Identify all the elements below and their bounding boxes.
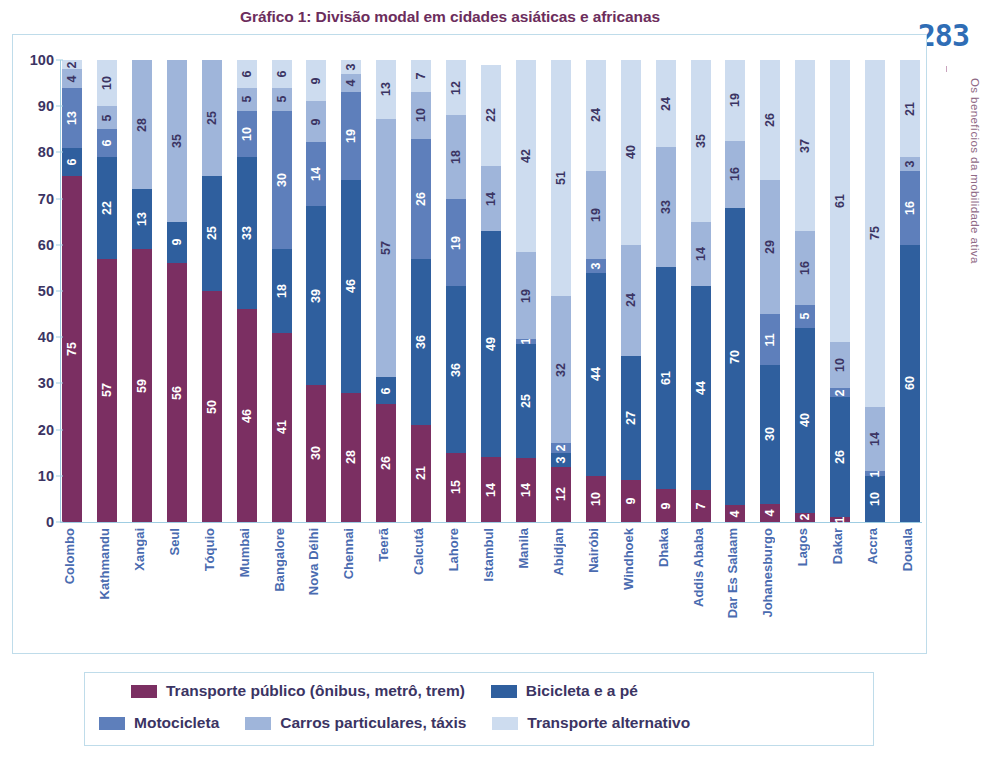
bar-segment[interactable]: 46	[237, 309, 257, 522]
bar-column[interactable]: 430112926	[760, 60, 780, 522]
bar-segment[interactable]: 19	[341, 92, 361, 180]
bar-column[interactable]: 14491422	[481, 60, 501, 522]
bar-segment[interactable]: 22	[97, 157, 117, 259]
bar-segment[interactable]: 25	[516, 344, 536, 458]
bar-segment[interactable]: 51	[551, 60, 571, 296]
bar-segment[interactable]: 33	[237, 157, 257, 309]
bar-segment[interactable]: 11	[760, 314, 780, 365]
bar-segment[interactable]: 3	[900, 157, 920, 171]
bar-segment[interactable]: 50	[202, 291, 222, 522]
bar-segment[interactable]: 6	[62, 148, 82, 176]
bar-segment[interactable]: 24	[586, 60, 606, 171]
bar-segment[interactable]: 24	[656, 60, 676, 147]
bar-segment[interactable]: 7	[691, 490, 711, 522]
bar-segment[interactable]: 60	[900, 245, 920, 522]
bar-segment[interactable]: 42	[516, 60, 536, 252]
bar-segment[interactable]: 7	[411, 60, 431, 92]
bar-segment[interactable]: 57	[97, 259, 117, 522]
bar-segment[interactable]: 16	[795, 231, 815, 305]
bar-segment[interactable]: 3	[341, 60, 361, 74]
bar-segment[interactable]: 57	[376, 119, 396, 377]
bar-segment[interactable]: 6	[237, 60, 257, 88]
bar-column[interactable]: 12323251	[551, 60, 571, 522]
bar-column[interactable]: 213626107	[411, 60, 431, 522]
bar-segment[interactable]: 5	[97, 106, 117, 129]
bar-column[interactable]: 30391499	[306, 60, 326, 522]
bar-column[interactable]: 57226510	[97, 60, 117, 522]
bar-segment[interactable]: 10	[830, 342, 850, 388]
bar-segment[interactable]: 32	[551, 296, 571, 444]
bar-segment[interactable]: 19	[446, 199, 466, 287]
bar-segment[interactable]: 25	[202, 176, 222, 292]
bar-segment[interactable]: 44	[691, 286, 711, 489]
bar-segment[interactable]: 3	[551, 453, 571, 467]
bar-segment[interactable]: 59	[132, 249, 152, 522]
bar-segment[interactable]: 36	[411, 259, 431, 425]
bar-segment[interactable]: 49	[481, 231, 501, 457]
bar-segment[interactable]: 1	[865, 471, 885, 476]
bar-segment[interactable]: 18	[446, 115, 466, 198]
bar-segment[interactable]: 6	[376, 377, 396, 404]
bar-segment[interactable]: 75	[865, 60, 885, 407]
bar-segment[interactable]: 33	[656, 147, 676, 267]
bar-segment[interactable]: 61	[656, 267, 676, 489]
bar-column[interactable]: 2665713	[376, 60, 396, 522]
bar-segment[interactable]: 14	[481, 166, 501, 231]
bar-segment[interactable]: 21	[900, 60, 920, 157]
bar-segment[interactable]: 21	[411, 425, 431, 522]
bar-segment[interactable]: 25	[202, 60, 222, 176]
bar-segment[interactable]: 16	[900, 171, 920, 245]
bar-column[interactable]: 9272440	[621, 60, 641, 522]
bar-column[interactable]: 9613324	[656, 60, 676, 522]
bar-column[interactable]: 12621061	[830, 60, 850, 522]
bar-segment[interactable]: 10	[97, 60, 117, 106]
bar-segment[interactable]: 41	[272, 333, 292, 522]
bar-column[interactable]: 104431924	[586, 60, 606, 522]
bar-column[interactable]: 4701619	[725, 60, 745, 522]
bar-segment[interactable]: 4	[760, 504, 780, 522]
bar-segment[interactable]: 29	[760, 180, 780, 314]
bar-segment[interactable]: 16	[725, 141, 745, 209]
bar-segment[interactable]: 14	[691, 222, 711, 287]
bar-column[interactable]: 41183056	[272, 60, 292, 522]
legend-item[interactable]: Transporte alternativo	[492, 714, 690, 732]
bar-segment[interactable]: 27	[621, 356, 641, 481]
bar-segment[interactable]: 30	[272, 111, 292, 250]
bar-column[interactable]: 28461943	[341, 60, 361, 522]
bar-column[interactable]: 591328	[132, 60, 152, 522]
bar-segment[interactable]: 39	[306, 206, 326, 384]
bar-segment[interactable]: 4	[725, 505, 745, 522]
bar-segment[interactable]: 13	[132, 189, 152, 249]
bar-segment[interactable]: 19	[725, 60, 745, 141]
bar-segment[interactable]: 26	[376, 404, 396, 522]
bar-segment[interactable]: 14	[306, 142, 326, 206]
legend-item[interactable]: Carros particulares, táxis	[245, 714, 466, 732]
bar-segment[interactable]: 40	[621, 60, 641, 245]
bar-segment[interactable]: 36	[446, 286, 466, 452]
bar-segment[interactable]: 19	[586, 171, 606, 259]
bar-segment[interactable]: 5	[272, 88, 292, 111]
bar-segment[interactable]: 4	[62, 69, 82, 87]
bar-segment[interactable]: 13	[62, 88, 82, 148]
bar-segment[interactable]: 30	[760, 365, 780, 504]
bar-segment[interactable]: 61	[830, 60, 850, 342]
bar-segment[interactable]: 26	[411, 139, 431, 259]
bar-segment[interactable]: 6	[97, 129, 117, 157]
bar-segment[interactable]: 9	[306, 60, 326, 101]
bar-segment[interactable]: 5	[795, 305, 815, 328]
bar-segment[interactable]: 24	[621, 245, 641, 356]
bar-segment[interactable]: 2	[62, 60, 82, 69]
bar-segment[interactable]: 56	[167, 263, 187, 522]
bar-segment[interactable]: 2	[551, 443, 571, 452]
bar-segment[interactable]: 9	[167, 222, 187, 264]
bar-segment[interactable]: 22	[481, 65, 501, 167]
legend-item[interactable]: Transporte público (ônibus, metrô, trem)	[131, 682, 465, 700]
bar-segment[interactable]: 10	[411, 92, 431, 138]
bar-column[interactable]: 7561342	[62, 60, 82, 522]
bar-segment[interactable]: 37	[795, 60, 815, 231]
bar-segment[interactable]: 28	[132, 60, 152, 189]
bar-segment[interactable]: 12	[446, 60, 466, 115]
bar-column[interactable]: 46331056	[237, 60, 257, 522]
bar-segment[interactable]: 30	[306, 385, 326, 522]
legend-item[interactable]: Motocicleta	[99, 714, 219, 732]
